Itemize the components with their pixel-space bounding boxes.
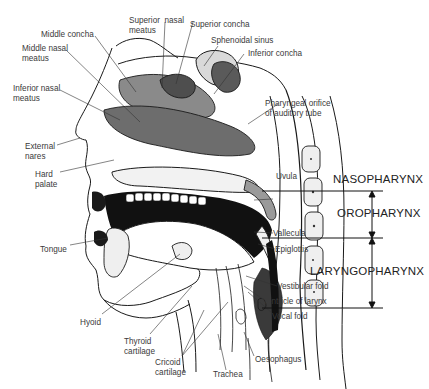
region-oropharynx: OROPHARYNX [337, 207, 421, 219]
label-inferior-concha: Inferior concha [248, 49, 302, 59]
label-ventricle-of-larynx: Ventricle of larynx [262, 297, 327, 307]
label-superior-nasal-meatus: Superior nasal meatus [129, 16, 184, 35]
label-pharyngeal-orifice: Pharyngeal orifice of auditory tube [265, 99, 331, 118]
label-hard-palate: Hard palate [35, 170, 57, 189]
label-superior-concha: Superior concha [190, 20, 250, 30]
label-thyroid-cartilage: Thyroid cartilage [124, 337, 155, 356]
label-uvula: Uvula [276, 172, 297, 182]
label-inferior-nasal-meatus: Inferior nasal meatus [13, 84, 60, 103]
label-oesophagus: Oesophagus [255, 355, 301, 365]
label-middle-nasal-meatus: Middle nasal meatus [22, 44, 68, 63]
label-external-nares: External nares [25, 142, 55, 161]
label-vocal-fold: Vocal fold [272, 312, 308, 322]
label-vallecula: Vallecula [273, 229, 306, 239]
label-trachea: Trachea [213, 370, 243, 380]
region-laryngopharynx: LARYNGOPHARYNX [310, 265, 424, 277]
label-tongue: Tongue [40, 245, 67, 255]
label-epiglottis: Epiglottis [275, 245, 308, 255]
label-hyoid: Hyoid [80, 318, 101, 328]
label-vestibular-fold: Vestibular fold [277, 282, 328, 292]
label-cricoid-cartilage: Cricoid cartilage [155, 358, 186, 377]
label-sphenoidal-sinus: Sphenoidal sinus [211, 36, 273, 46]
label-middle-concha: Middle concha [41, 30, 94, 40]
region-nasopharynx: NASOPHARYNX [333, 173, 423, 185]
